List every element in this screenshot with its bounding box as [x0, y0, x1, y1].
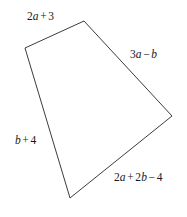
math-token-var: a	[136, 48, 142, 60]
side-label-top-left: 2a+3	[27, 11, 54, 23]
math-token-var: a	[33, 10, 39, 22]
math-token-num: 3	[48, 10, 54, 22]
math-token-num: 4	[157, 171, 163, 183]
math-token-op: −	[142, 48, 152, 60]
math-token-var: a	[120, 171, 126, 183]
side-label-left: b+4	[15, 135, 36, 147]
quadrilateral-svg	[0, 0, 187, 217]
geometry-figure: 2a+3 3a−b b+4 2a+2b−4	[0, 0, 187, 217]
math-token-op: +	[39, 10, 49, 22]
math-token-op: +	[126, 171, 136, 183]
math-token-op: −	[147, 171, 157, 183]
side-label-top-right: 3a−b	[130, 49, 157, 61]
math-token-var: b	[15, 134, 21, 146]
side-label-bottom: 2a+2b−4	[114, 172, 162, 184]
math-token-var: b	[151, 48, 157, 60]
math-token-num: 4	[30, 134, 36, 146]
math-token-op: +	[21, 134, 31, 146]
